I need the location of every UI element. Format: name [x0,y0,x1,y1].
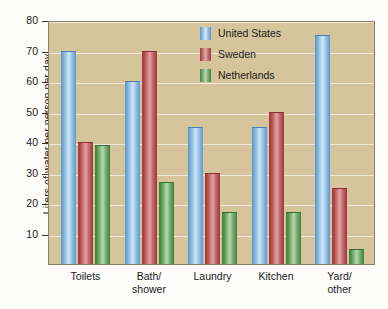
legend-item-se[interactable]: Sweden [200,45,281,63]
y-axis-tick-label: 80 [12,15,38,26]
x-axis-label: Kitchen [241,270,311,283]
bar-group [61,22,110,264]
bar-se[interactable] [332,188,347,264]
bar-nl[interactable] [95,145,110,264]
bar-us[interactable] [188,127,203,264]
x-axis-label: Yard/ other [305,270,375,296]
y-axis-tick-label: 10 [12,229,38,240]
x-axis-label: Laundry [178,270,248,283]
bar-nl[interactable] [222,212,237,264]
legend-label: Sweden [218,48,256,60]
y-axis-tick-label: 60 [12,76,38,87]
y-axis-tick-label: 20 [12,198,38,209]
bar-nl[interactable] [159,182,174,264]
bar-us[interactable] [315,35,330,264]
x-axis-label: Toilets [51,270,121,283]
y-axis-tick-label: 50 [12,107,38,118]
bar-se[interactable] [205,173,220,265]
bar-nl[interactable] [349,249,364,264]
bar-nl[interactable] [286,212,301,264]
legend-swatch-nl [200,69,211,82]
legend-swatch-se [200,48,211,61]
bar-se[interactable] [142,51,157,265]
legend-label: United States [218,27,281,39]
bar-us[interactable] [61,51,76,265]
legend-label: Netherlands [218,69,275,81]
bar-se[interactable] [78,142,93,264]
legend-item-us[interactable]: United States [200,24,281,42]
bar-chart-figure: Liters of water per person per day 10203… [0,0,388,309]
bar-group [125,22,174,264]
y-axis-tick-label: 30 [12,168,38,179]
legend-item-nl[interactable]: Netherlands [200,66,281,84]
x-axis-label: Bath/ shower [114,270,184,296]
legend-swatch-us [200,27,211,40]
bar-se[interactable] [269,112,284,265]
y-axis-tick-label: 40 [12,137,38,148]
y-axis-tick-label: 70 [12,46,38,57]
bar-us[interactable] [125,81,140,264]
bar-group [315,22,364,264]
chart-legend: United StatesSwedenNetherlands [200,24,281,87]
bar-us[interactable] [252,127,267,264]
